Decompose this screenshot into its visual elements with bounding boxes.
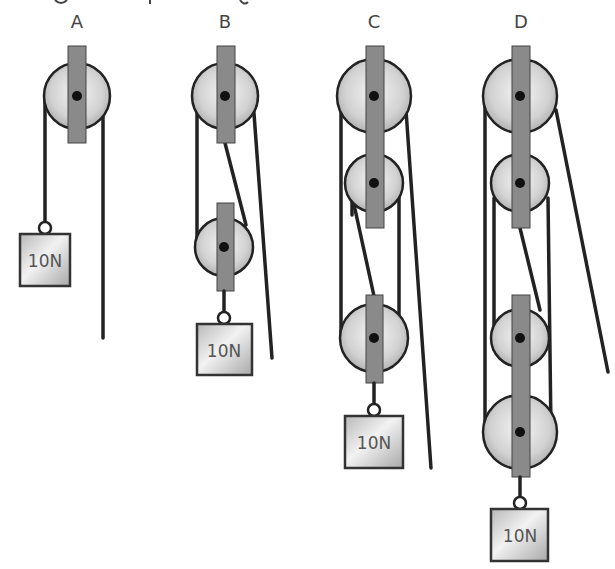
hook-icon <box>39 222 51 234</box>
weight-box: 10N <box>491 509 548 561</box>
axle-icon <box>369 91 379 101</box>
system-label-d: D <box>514 11 528 32</box>
fixed-pulley <box>44 46 110 143</box>
axle-icon <box>515 91 525 101</box>
pulley-system-a: A 10N <box>20 11 110 338</box>
system-label-b: B <box>219 11 231 32</box>
weight-label: 10N <box>28 251 62 271</box>
rope-inner-right <box>548 198 551 430</box>
pulley-systems-diagram: A 10N B <box>0 0 615 569</box>
rope-free-end <box>253 100 272 358</box>
axle-icon <box>369 333 379 343</box>
weight-box: 10N <box>197 324 252 375</box>
cut-off-title <box>55 0 248 4</box>
axle-icon <box>515 178 525 188</box>
rope-free-end <box>556 110 608 372</box>
axle-icon <box>220 91 230 101</box>
fixed-pulley <box>192 46 258 143</box>
weight-box: 10N <box>20 234 70 286</box>
axle-icon <box>515 427 525 437</box>
hook-icon <box>218 312 230 324</box>
pulley-system-b: B 10N <box>192 11 272 375</box>
system-label-a: A <box>71 11 84 32</box>
axle-icon <box>219 242 229 252</box>
weight-label: 10N <box>503 526 537 546</box>
hook-icon <box>514 497 526 509</box>
system-label-c: C <box>368 11 381 32</box>
axle-icon <box>369 178 379 188</box>
pulley-system-c: C 10N <box>337 11 431 468</box>
hook-icon <box>368 404 380 416</box>
weight-label: 10N <box>207 341 241 361</box>
axle-icon <box>515 333 525 343</box>
axle-icon <box>72 91 82 101</box>
weight-label: 10N <box>357 433 391 453</box>
rope-free-end <box>406 110 431 468</box>
pulley-system-d: D 10N <box>483 11 608 561</box>
weight-box: 10N <box>345 416 403 468</box>
